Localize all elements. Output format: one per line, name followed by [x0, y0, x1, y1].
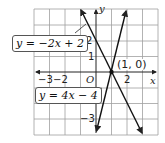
axes [36, 10, 156, 133]
tick-label-x2: 2 [124, 75, 130, 85]
origin-label: O [86, 75, 94, 85]
equation-callout-2: y = 4x − 4 [35, 87, 102, 104]
tick-label-yneg3: −3 [80, 114, 95, 124]
intersection-point [109, 70, 113, 74]
y-axis-label: y [99, 4, 105, 14]
equation-callout-1: y = −2x + 2 [12, 35, 88, 52]
tick-label-neg3: −3 [38, 75, 53, 85]
intersection-label: (1, 0) [116, 59, 148, 70]
tick-label-y1: 1 [88, 52, 94, 62]
x-axis-label: x [150, 76, 156, 86]
tick-label-neg2: −2 [53, 75, 68, 85]
